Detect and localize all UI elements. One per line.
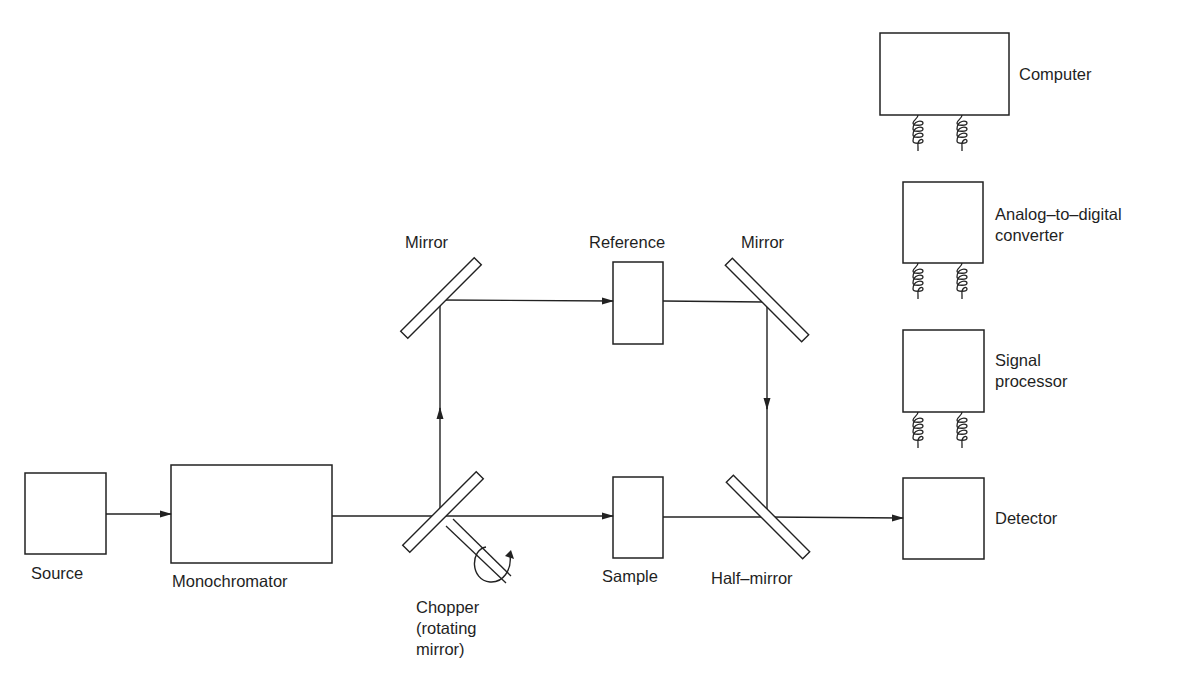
monochromator-label: Monochromator	[172, 571, 288, 591]
chopper-label-line2: (rotating	[416, 618, 477, 638]
mirror-right-label: Mirror	[741, 232, 784, 252]
sample-box	[613, 477, 663, 558]
monochromator-box	[171, 465, 332, 563]
source-label: Source	[31, 563, 83, 583]
beam-reference-to-mirror	[663, 301, 767, 302]
signal-processor-label-line2: processor	[995, 371, 1067, 391]
reference-label: Reference	[589, 232, 665, 252]
cables	[913, 115, 967, 448]
mirror-left	[401, 258, 482, 339]
beam-mirror-to-reference	[440, 300, 613, 301]
adc-box	[903, 182, 983, 263]
detector-box	[903, 478, 984, 559]
signal-processor-label-line1: Signal	[995, 350, 1041, 370]
chopper	[403, 472, 514, 583]
computer-box	[880, 33, 1009, 115]
chopper-label-line3: mirror)	[416, 639, 465, 659]
adc-label-line1: Analog–to–digital	[995, 204, 1122, 224]
source-box	[25, 473, 106, 554]
rotation-arrow-icon	[474, 547, 510, 582]
signal-processor-box	[903, 330, 984, 412]
reference-box	[613, 262, 663, 344]
detector-label: Detector	[995, 508, 1057, 528]
beam-halfmirror-to-detector	[767, 517, 903, 518]
computer-label: Computer	[1019, 64, 1091, 84]
chopper-label-line1: Chopper	[416, 597, 479, 617]
mirror-left-label: Mirror	[405, 232, 448, 252]
half-mirror-label: Half–mirror	[711, 568, 793, 588]
adc-label-line2: converter	[995, 225, 1064, 245]
sample-label: Sample	[602, 566, 658, 586]
